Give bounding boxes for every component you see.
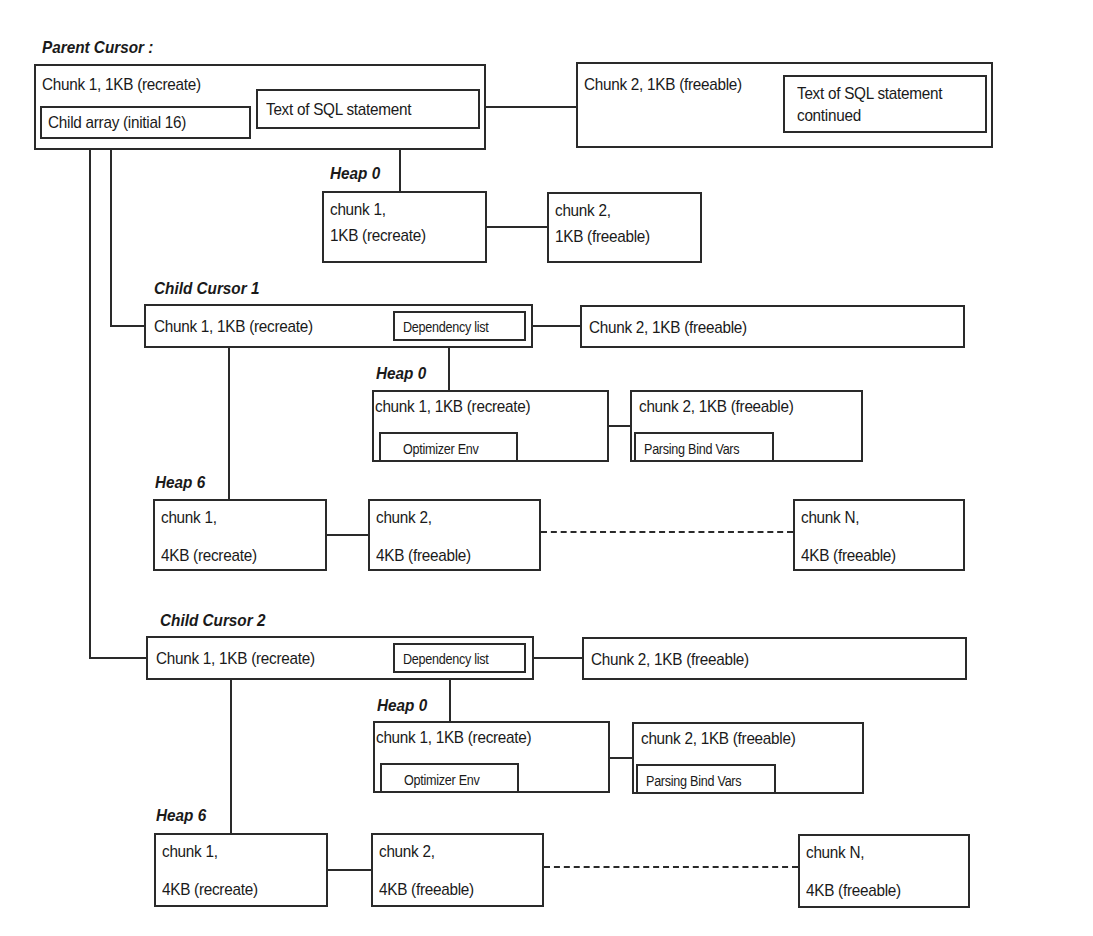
child1-dependency-text: Dependency list <box>403 318 489 336</box>
child2-heap6-chunk2-box: chunk 2, 4KB (freeable) <box>371 833 544 907</box>
child2-optimizer-box: Optimizer Env <box>380 763 519 793</box>
connector-line <box>486 106 576 108</box>
sql-text: Text of SQL statement <box>266 99 411 120</box>
parent-chunk1-text: Chunk 1, 1KB (recreate) <box>42 74 201 95</box>
child2-heap6-chunk2-line2: 4KB (freeable) <box>379 879 474 900</box>
connector-line <box>328 869 371 871</box>
child2-heap0-chunk2-text: chunk 2, 1KB (freeable) <box>641 728 796 749</box>
child1-bind-vars-box: Parsing Bind Vars <box>634 432 774 462</box>
parent-heap0-chunk2-line2: 1KB (freeable) <box>555 226 650 247</box>
ellipsis-dashed-line <box>544 866 798 868</box>
child1-heap6-label: Heap 6 <box>155 473 205 493</box>
connector-line <box>487 226 547 228</box>
child2-chunk2-text: Chunk 2, 1KB (freeable) <box>591 649 749 670</box>
child2-heap6-chunk1-line2: 4KB (recreate) <box>162 879 258 900</box>
parent-heap0-chunk2-line1: chunk 2, <box>555 200 611 221</box>
child2-bind-vars-box: Parsing Bind Vars <box>636 764 776 794</box>
connector-line <box>609 425 630 427</box>
connector-line <box>230 680 232 835</box>
child1-heap6-chunk1-line1: chunk 1, <box>161 507 217 528</box>
child2-chunk1-text: Chunk 1, 1KB (recreate) <box>156 648 315 669</box>
child2-optimizer-text: Optimizer Env <box>404 771 480 789</box>
child1-label: Child Cursor 1 <box>154 279 259 299</box>
child1-optimizer-box: Optimizer Env <box>379 432 518 462</box>
connector-line <box>399 150 401 192</box>
child-array-text: Child array (initial 16) <box>48 112 186 133</box>
child1-heap6-chunk2-box: chunk 2, 4KB (freeable) <box>368 499 541 571</box>
child1-bind-vars-text: Parsing Bind Vars <box>644 440 739 458</box>
connector-line <box>327 534 368 536</box>
connector-line <box>89 657 146 659</box>
child1-heap6-chunk2-line1: chunk 2, <box>376 507 432 528</box>
parent-chunk2-text: Chunk 2, 1KB (freeable) <box>584 74 742 95</box>
connector-line <box>110 325 145 327</box>
parent-heap0-chunk1-line2: 1KB (recreate) <box>330 225 426 246</box>
sql-text-box: Text of SQL statement <box>256 89 480 129</box>
child1-chunk1-text: Chunk 1, 1KB (recreate) <box>154 316 313 337</box>
connector-line <box>228 348 230 500</box>
parent-heap0-chunk1-line1: chunk 1, <box>330 199 386 220</box>
child2-label: Child Cursor 2 <box>160 611 265 631</box>
child2-dependency-box: Dependency list <box>393 643 526 673</box>
child2-bind-vars-text: Parsing Bind Vars <box>646 772 741 790</box>
child1-heap6-chunkN-box: chunk N, 4KB (freeable) <box>793 499 965 571</box>
sql-text-continued-box: Text of SQL statement continued <box>783 75 987 133</box>
child2-heap0-chunk1-text: chunk 1, 1KB (recreate) <box>376 727 531 748</box>
connector-line <box>534 657 582 659</box>
child1-dependency-box: Dependency list <box>393 311 526 341</box>
child2-heap6-chunk1-line1: chunk 1, <box>162 841 218 862</box>
connector-line <box>110 148 112 327</box>
child2-dependency-text: Dependency list <box>403 650 489 668</box>
child1-heap6-chunk1-box: chunk 1, 4KB (recreate) <box>153 499 327 571</box>
child1-heap0-label: Heap 0 <box>376 364 426 384</box>
child1-heap6-chunkN-line1: chunk N, <box>801 507 859 528</box>
child2-heap6-chunkN-line2: 4KB (freeable) <box>806 880 901 901</box>
child1-chunk2-box: Chunk 2, 1KB (freeable) <box>580 305 965 348</box>
connector-line <box>610 757 632 759</box>
sql-text-continued-line1: Text of SQL statement <box>797 83 942 104</box>
child1-heap0-chunk2-text: chunk 2, 1KB (freeable) <box>639 396 794 417</box>
child2-heap6-chunkN-box: chunk N, 4KB (freeable) <box>798 834 970 908</box>
parent-heap0-chunk1-box: chunk 1, 1KB (recreate) <box>322 191 487 263</box>
child1-heap6-chunk2-line2: 4KB (freeable) <box>376 545 471 566</box>
connector-line <box>449 680 451 722</box>
child2-heap6-label: Heap 6 <box>156 806 206 826</box>
parent-heap0-label: Heap 0 <box>330 164 380 184</box>
sql-text-continued-line2: continued <box>797 105 861 126</box>
child2-chunk2-box: Chunk 2, 1KB (freeable) <box>582 637 967 680</box>
child2-heap6-chunk1-box: chunk 1, 4KB (recreate) <box>154 833 328 907</box>
child1-heap0-chunk1-text: chunk 1, 1KB (recreate) <box>375 396 530 417</box>
connector-line <box>89 148 91 659</box>
child2-heap6-chunkN-line1: chunk N, <box>806 842 864 863</box>
connector-line <box>448 348 450 390</box>
parent-cursor-label: Parent Cursor : <box>42 38 153 58</box>
child1-optimizer-text: Optimizer Env <box>403 440 479 458</box>
ellipsis-dashed-line <box>541 531 793 533</box>
child1-heap6-chunkN-line2: 4KB (freeable) <box>801 545 896 566</box>
child1-chunk2-text: Chunk 2, 1KB (freeable) <box>589 317 747 338</box>
connector-line <box>533 325 580 327</box>
child1-heap6-chunk1-line2: 4KB (recreate) <box>161 545 257 566</box>
child-array-box: Child array (initial 16) <box>40 106 251 139</box>
child2-heap0-label: Heap 0 <box>377 696 427 716</box>
parent-heap0-chunk2-box: chunk 2, 1KB (freeable) <box>547 192 702 263</box>
child2-heap6-chunk2-line1: chunk 2, <box>379 841 435 862</box>
